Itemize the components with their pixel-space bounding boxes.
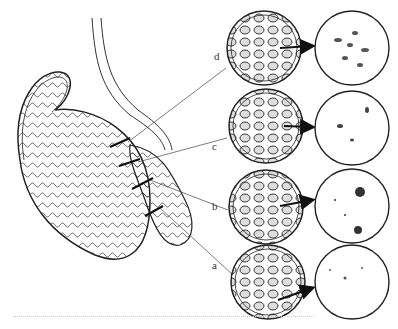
- section-d: [227, 11, 389, 85]
- testis-diagram: [0, 0, 398, 329]
- section-b: [229, 169, 389, 244]
- label-a: a: [212, 259, 217, 271]
- label-c: c: [212, 140, 217, 152]
- label-d: d: [214, 50, 220, 62]
- faded-caption: [14, 316, 314, 320]
- label-b: b: [212, 200, 218, 212]
- testis: [18, 72, 150, 259]
- section-c: [229, 89, 389, 165]
- section-a: [231, 245, 389, 319]
